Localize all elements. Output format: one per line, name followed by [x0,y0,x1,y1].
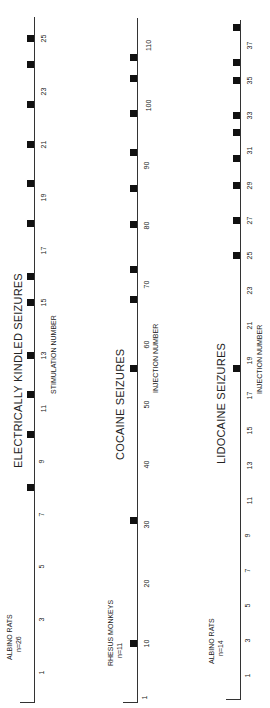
seizure-marker [27,299,34,306]
panel-title: LIDOCAINE SEIZURES [215,343,227,464]
x-tick-label: 15 [40,299,47,307]
seizure-marker [233,77,240,84]
x-axis-label: INJECTION NUMBER [152,324,159,393]
x-tick-label: 33 [246,112,253,120]
x-tick-label: 19 [40,193,47,201]
seizure-marker [130,185,137,192]
seizure-marker [27,484,34,491]
subject-group-label: ALBINO RATS n=26 [5,614,23,660]
seizure-marker [130,365,137,372]
x-tick-label: 25 [246,252,253,260]
seizure-marker [27,61,34,68]
x-tick-label: 9 [38,459,45,463]
axis-end-stub [123,702,138,703]
x-tick-label: 7 [38,512,45,516]
x-tick-label: 35 [246,77,253,85]
x-tick-label: 100 [145,100,152,112]
x-tick-label: 40 [143,460,150,468]
seizure-marker [233,365,240,372]
x-tick-label: 10 [143,640,150,648]
x-tick-label: 23 [40,88,47,96]
x-tick-label: 11 [40,405,47,412]
seizure-marker [130,266,137,273]
sample-size: n=14 [216,618,225,664]
x-tick-label: 1 [38,671,45,675]
x-tick-label: 30 [143,520,150,528]
sample-size: n=26 [14,614,23,660]
x-tick-label: 17 [40,246,47,254]
seizure-marker [130,640,137,647]
x-axis-line [240,20,241,699]
seizure-marker [130,54,137,61]
x-tick-label: 1 [244,674,251,678]
subject-group-label: RHESUS MONKEYS n=11 [106,600,124,666]
x-axis-label: STIMULATION NUMBER [50,315,57,394]
x-tick-label: 31 [246,147,253,155]
subject-group-label: ALBINO RATS n=14 [207,618,225,664]
seizure-marker [130,75,137,82]
seizure-marker [130,149,137,156]
seizure-marker [233,217,240,224]
x-tick-label: 5 [244,604,251,608]
x-tick-label: 11 [246,497,253,504]
x-axis-label: INJECTION NUMBER [256,325,263,394]
seizure-marker [27,273,34,280]
seizure-marker [130,296,137,303]
x-tick-label: 13 [246,462,253,470]
group-name: RHESUS MONKEYS [106,600,115,666]
seizure-marker [27,141,34,148]
x-tick-label: 3 [38,618,45,622]
x-tick-label: 29 [246,182,253,190]
seizure-marker [27,431,34,438]
panel-title: ELECTRICALLY KINDLED SEIZURES [12,273,24,468]
x-tick-label: 17 [246,392,253,400]
x-tick-label: 13 [40,352,47,360]
seizure-marker [130,110,137,117]
x-tick-label: 110 [145,40,152,51]
x-tick-label: 19 [246,357,253,365]
seizure-marker [233,129,240,136]
panel-title: COCAINE SEIZURES [114,349,126,460]
x-tick-label: 20 [143,580,150,588]
seizure-marker [233,24,240,31]
seizure-marker [233,59,240,66]
seizure-marker [27,391,34,398]
x-tick-label: 90 [143,161,150,169]
x-tick-label: 9 [244,534,251,538]
x-tick-label: 37 [246,42,253,50]
x-tick-label: 7 [244,569,251,573]
seizure-marker [130,221,137,228]
group-name: ALBINO RATS [5,614,14,660]
seizure-marker [27,35,34,42]
group-name: ALBINO RATS [207,618,216,664]
x-tick-label: 3 [244,639,251,643]
x-tick-label: 15 [246,427,253,435]
seizure-marker [27,220,34,227]
x-tick-label: 27 [246,217,253,225]
x-tick-label: 21 [246,322,253,330]
x-tick-label: 70 [143,281,150,289]
x-tick-label: 50 [143,401,150,409]
x-axis-line [137,18,138,702]
x-tick-label: 5 [38,565,45,569]
seizure-marker [27,180,34,187]
x-tick-label: 25 [40,35,47,43]
seizure-marker [27,352,34,359]
x-tick-label: 23 [246,287,253,295]
seizure-marker [233,155,240,162]
seizure-marker [233,182,240,189]
x-tick-label: 60 [143,341,150,349]
x-tick-label: 21 [40,141,47,149]
seizure-marker [27,101,34,108]
seizure-marker [130,517,137,524]
x-tick-label: 80 [143,221,150,229]
axis-end-stub [20,702,35,703]
sample-size: n=11 [115,600,124,666]
seizure-marker [233,252,240,259]
x-tick-label: 1 [141,696,148,700]
axis-end-stub [226,699,241,700]
seizure-marker [233,112,240,119]
x-axis-line [34,17,35,702]
